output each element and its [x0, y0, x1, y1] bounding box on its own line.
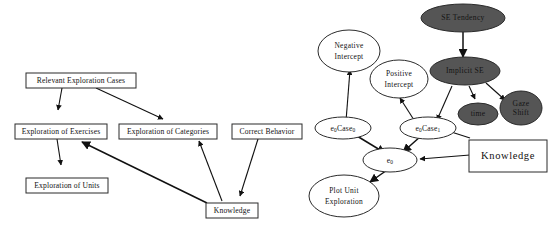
edge-knowledge-to-e0: [420, 155, 470, 159]
node-negative-intercept[interactable]: Negative Intercept: [318, 30, 380, 72]
figure-canvas: Relevant Exploration Cases Exploration o…: [0, 0, 553, 230]
node-gaze-shift[interactable]: Gaze Shift: [500, 91, 542, 125]
edge-implicit-se-to-time: [469, 86, 475, 99]
node-label: Knowledge: [481, 150, 535, 161]
node-exploration-of-units[interactable]: Exploration of Units: [26, 178, 108, 193]
left-diagram: Relevant Exploration Cases Exploration o…: [15, 73, 302, 218]
node-label: Relevant Exploration Cases: [37, 76, 125, 85]
edge-knowledge-to-categories: [199, 141, 222, 201]
right-diagram: SE Tendency Implicit SE time Gaze Shift: [309, 4, 547, 217]
node-label-line2: Shift: [513, 108, 530, 117]
node-label: Exploration of Exercises: [22, 127, 101, 136]
edge-implicit-se-to-gaze-shift: [486, 83, 505, 100]
node-label-line1: Positive: [386, 69, 413, 78]
diagram-svg: Relevant Exploration Cases Exploration o…: [0, 0, 553, 230]
edge-e0case1-to-positive-intercept: [400, 98, 414, 120]
node-label-line2: Intercept: [335, 52, 365, 61]
node-e0case1[interactable]: e0Case1: [400, 117, 456, 139]
node-label: Implicit SE: [446, 66, 484, 75]
node-relevant-exploration-cases[interactable]: Relevant Exploration Cases: [26, 73, 136, 88]
edge-knowledge-to-exercises: [82, 142, 207, 203]
node-label-line1: Gaze: [513, 99, 530, 108]
node-knowledge-left[interactable]: Knowledge: [206, 203, 258, 218]
node-implicit-se[interactable]: Implicit SE: [430, 57, 500, 85]
node-plot-unit-exploration[interactable]: Plot Unit Exploration: [309, 175, 379, 217]
node-se-tendency[interactable]: SE Tendency: [421, 4, 505, 32]
node-label-line2: Exploration: [325, 197, 363, 206]
node-label-line2: Intercept: [385, 80, 415, 89]
node-label: Correct Behavior: [240, 127, 295, 136]
node-time[interactable]: time: [458, 103, 498, 125]
node-label: SE Tendency: [441, 13, 484, 22]
node-e0case0[interactable]: e0Case0: [315, 117, 371, 139]
node-label: Exploration of Categories: [127, 127, 209, 136]
edge-e0case0-to-negative-intercept: [346, 70, 350, 121]
edge-cases-to-categories: [96, 88, 163, 119]
edge-correct-behavior-to-knowledge: [240, 139, 258, 196]
node-exploration-of-exercises[interactable]: Exploration of Exercises: [15, 124, 107, 139]
node-e0[interactable]: e0: [363, 148, 417, 172]
node-label: Exploration of Units: [34, 181, 99, 190]
edge-cases-to-exercises: [58, 88, 62, 110]
node-knowledge-right[interactable]: Knowledge: [469, 140, 547, 172]
node-correct-behavior[interactable]: Correct Behavior: [232, 124, 302, 139]
edge-exercises-to-units: [57, 139, 61, 165]
node-label: time: [471, 109, 486, 118]
edge-implicit-se-to-e0case1: [437, 86, 452, 120]
node-label-line1: Negative: [334, 41, 363, 50]
node-label-line1: Plot Unit: [329, 186, 359, 195]
node-label: Knowledge: [214, 206, 251, 215]
node-positive-intercept[interactable]: Positive Intercept: [370, 60, 428, 98]
node-exploration-of-categories[interactable]: Exploration of Categories: [119, 124, 217, 139]
